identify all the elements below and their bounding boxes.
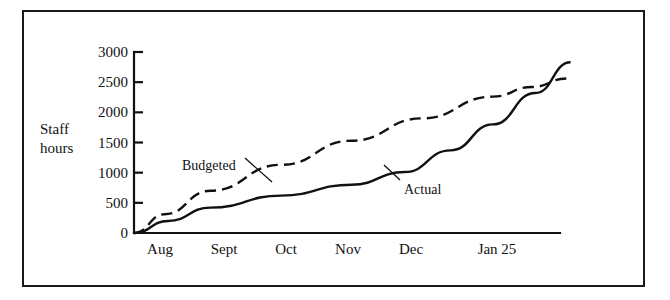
- chart-series: [134, 62, 571, 233]
- y-axis-tick-label: 0: [78, 226, 128, 241]
- x-axis-tick-label: Jan 25: [478, 242, 517, 257]
- y-axis-title-line2: hours: [40, 141, 73, 156]
- x-axis-tick-label: Aug: [147, 242, 173, 257]
- y-axis-tick-label: 3000: [78, 45, 128, 60]
- x-axis-tick-label: Oct: [275, 242, 297, 257]
- series-label-actual: Actual: [404, 183, 441, 197]
- figure-container: 050010001500200025003000StaffhoursAugSep…: [0, 0, 670, 300]
- y-axis-title: Staffhours: [40, 122, 73, 156]
- y-axis-title-line1: Staff: [40, 122, 73, 137]
- annotation-leader-budgeted: [245, 158, 272, 182]
- series-label-budgeted: Budgeted: [182, 159, 236, 173]
- y-axis-tick-label: 500: [78, 195, 128, 210]
- y-axis-tick-label: 2000: [78, 105, 128, 120]
- y-axis-tick-label: 1500: [78, 135, 128, 150]
- y-axis-tick-label: 1000: [78, 165, 128, 180]
- series-line-actual: [134, 62, 571, 233]
- y-axis-tick-label: 2500: [78, 75, 128, 90]
- x-axis-tick-label: Nov: [335, 242, 361, 257]
- x-axis-tick-label: Sept: [211, 242, 238, 257]
- x-axis-tick-label: Dec: [399, 242, 423, 257]
- chart-axes: [134, 52, 560, 233]
